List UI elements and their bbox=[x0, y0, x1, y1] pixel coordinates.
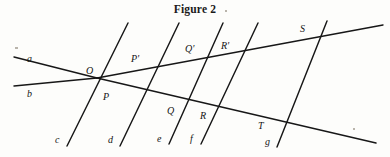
line-label-b: b bbox=[27, 89, 32, 99]
line-label-e: e bbox=[157, 134, 161, 144]
paper-speck-2 bbox=[353, 128, 355, 130]
line-label-c: c bbox=[55, 135, 59, 145]
point-label-Pp: P' bbox=[131, 54, 139, 64]
line-label-g: g bbox=[265, 137, 270, 147]
point-label-P: P bbox=[103, 92, 109, 102]
figure-container: Figure 2 OPP'QQ'RR'STabcdefg bbox=[0, 0, 390, 157]
point-label-Qp: Q' bbox=[185, 44, 194, 54]
line-label-a: a bbox=[27, 54, 32, 64]
paper-speck-0 bbox=[15, 47, 18, 49]
point-label-T: T bbox=[258, 121, 264, 131]
line-c bbox=[67, 23, 128, 146]
line-a2 bbox=[97, 25, 383, 78]
line-label-f: f bbox=[190, 134, 193, 144]
point-label-Rp: R' bbox=[221, 41, 229, 51]
point-label-Q: Q bbox=[167, 106, 174, 116]
paper-speck-1 bbox=[225, 10, 227, 12]
point-label-R: R bbox=[200, 111, 206, 121]
lines-group bbox=[14, 21, 383, 147]
line-label-d: d bbox=[108, 135, 113, 145]
line-e bbox=[169, 23, 223, 144]
line-f bbox=[201, 23, 258, 144]
point-label-S: S bbox=[300, 24, 305, 34]
line-d bbox=[120, 23, 179, 146]
line-b2 bbox=[97, 78, 376, 143]
point-label-O: O bbox=[86, 66, 93, 76]
line-b bbox=[14, 78, 97, 86]
